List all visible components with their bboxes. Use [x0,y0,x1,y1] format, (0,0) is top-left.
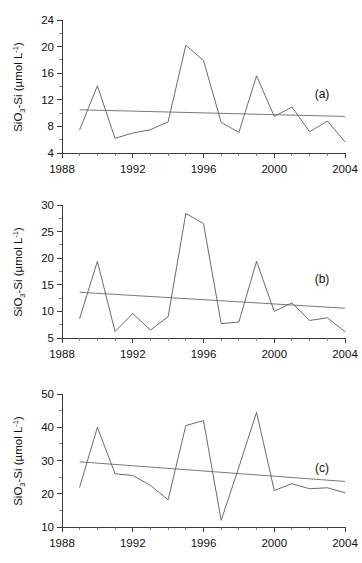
x-tick-label: 2000 [261,537,287,549]
svg-text:SiO3-Si (µmol L-1): SiO3-Si (µmol L-1) [11,227,27,317]
x-tick-label: 2000 [261,163,287,175]
chart-panel-a: 481216202419881992199620002004(a)SiO3-Si… [0,0,362,188]
panel-label: (b) [315,272,330,286]
data-series-line [80,45,345,141]
y-tick-label: 24 [41,14,54,26]
trend-line [80,110,345,117]
y-tick-label: 10 [41,521,54,533]
y-tick-label: 50 [41,388,54,400]
x-tick-label: 2004 [332,163,358,175]
chart-panel-c: 102030405019881992199620002004(c)SiO3-Si… [0,374,362,562]
x-tick-label: 1988 [49,348,75,360]
x-tick-label: 1992 [120,163,146,175]
y-axis-title: SiO3-Si (µmol L-1) [11,227,27,317]
data-series-line [80,412,345,520]
axis-lines [62,394,345,527]
y-tick-label: 20 [41,252,54,264]
x-tick-label: 1996 [191,163,217,175]
chart-panel-b: 5101520253019881992199620002004(b)SiO3-S… [0,185,362,373]
chart-svg-b: 5101520253019881992199620002004(b)SiO3-S… [0,185,362,373]
y-axis-title: SiO3-Si (µmol L-1) [11,416,27,506]
y-tick-label: 8 [48,120,54,132]
x-tick-label: 1992 [120,348,146,360]
svg-text:SiO3-Si (µmol L-1): SiO3-Si (µmol L-1) [11,416,27,506]
x-tick-label: 2004 [332,348,358,360]
data-series-line [80,214,345,332]
y-tick-label: 25 [41,226,54,238]
y-tick-label: 40 [41,421,54,433]
y-tick-label: 16 [41,67,54,79]
x-tick-label: 1996 [191,348,217,360]
y-tick-label: 20 [41,41,54,53]
x-tick-label: 1988 [49,537,75,549]
x-tick-label: 1992 [120,537,146,549]
figure-container: 481216202419881992199620002004(a)SiO3-Si… [0,0,362,563]
x-tick-label: 1996 [191,537,217,549]
y-tick-label: 20 [41,488,54,500]
y-tick-label: 10 [41,305,54,317]
y-tick-label: 30 [41,455,54,467]
y-tick-label: 12 [41,94,54,106]
chart-svg-a: 481216202419881992199620002004(a)SiO3-Si… [0,0,362,188]
y-axis-title: SiO3-Si (µmol L-1) [11,42,27,132]
y-tick-label: 30 [41,199,54,211]
trend-line [80,462,345,482]
trend-line [80,292,345,308]
x-tick-label: 2004 [332,537,358,549]
y-tick-label: 4 [48,147,55,159]
x-tick-label: 2000 [261,348,287,360]
x-tick-label: 1988 [49,163,75,175]
svg-text:SiO3-Si (µmol L-1): SiO3-Si (µmol L-1) [11,42,27,132]
axis-lines [62,20,345,153]
y-tick-label: 5 [48,332,54,344]
chart-svg-c: 102030405019881992199620002004(c)SiO3-Si… [0,374,362,562]
y-tick-label: 15 [41,279,54,291]
panel-label: (c) [315,461,329,475]
panel-label: (a) [315,87,330,101]
